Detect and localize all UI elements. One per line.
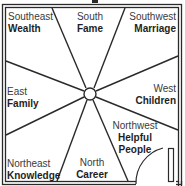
sector-south: South Fame — [75, 11, 105, 35]
sector-direction: North — [75, 157, 109, 169]
sector-area: Children — [135, 95, 176, 107]
sector-northeast: Northeast Knowledge — [7, 158, 60, 182]
sector-southeast: Southeast Wealth — [8, 11, 53, 35]
sector-area: Knowledge — [7, 170, 60, 182]
sector-direction: East — [7, 86, 39, 98]
sector-north: North Career — [75, 157, 109, 181]
sector-direction: Northwest — [112, 120, 158, 132]
sector-area-line2: People — [112, 144, 158, 156]
sector-southwest: Southwest Marriage — [129, 11, 176, 35]
center-circle-icon — [84, 88, 96, 100]
sector-area: Fame — [75, 23, 105, 35]
sector-east: East Family — [7, 86, 39, 110]
title-remnant — [92, 0, 98, 3]
sector-area: Wealth — [8, 23, 53, 35]
sector-west: West Children — [135, 83, 176, 107]
sector-area: Marriage — [129, 23, 176, 35]
sector-direction: West — [135, 83, 176, 95]
sector-area-line1: Helpful — [112, 132, 158, 144]
sector-area: Career — [75, 169, 109, 181]
sector-direction: Southeast — [8, 11, 53, 23]
sector-direction: South — [75, 11, 105, 23]
sector-direction: Southwest — [129, 11, 176, 23]
sector-direction: Northeast — [7, 158, 60, 170]
sector-area: Family — [7, 98, 39, 110]
sector-northwest: Northwest Helpful People — [112, 120, 158, 156]
